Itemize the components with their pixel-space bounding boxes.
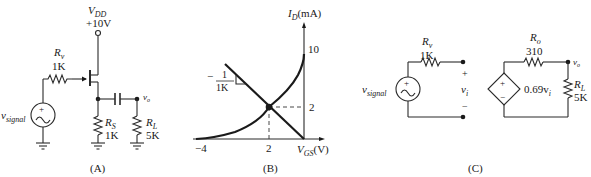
y-tick-10: 10 — [308, 43, 320, 55]
q-point — [266, 104, 273, 111]
ground-icon — [130, 143, 144, 149]
sine-icon — [401, 90, 415, 96]
rl-resistor — [133, 116, 141, 135]
sine-icon — [36, 117, 50, 123]
rs-resistor — [94, 116, 102, 135]
slope-sign: − — [207, 70, 213, 82]
transfer-curve — [196, 54, 304, 139]
slope-num: 1 — [222, 69, 227, 80]
rv-label: Rv — [53, 46, 65, 61]
gate-arrow-icon — [82, 77, 87, 82]
svg-text:−: − — [500, 92, 505, 102]
ground-icon — [91, 143, 105, 149]
rs-value: 1K — [105, 129, 119, 141]
panel-b: ID(mA) 10 2 −4 2 VGS(V) − 1 1K (B) — [193, 7, 329, 175]
vi-plus-terminal — [461, 60, 466, 65]
caption-b: (B) — [263, 162, 278, 175]
source-label: vsignal — [1, 109, 26, 124]
rl-value-c: 5K — [574, 91, 588, 103]
dep-source-gain: 0.69vi — [524, 83, 551, 98]
caption-c: (C) — [468, 162, 483, 175]
x-axis-label: VGS(V) — [297, 143, 329, 158]
panel-a: VDD +10V Rv 1K + vsignal — [1, 4, 160, 175]
slope-den: 1K — [216, 82, 229, 93]
vi-plus: + — [462, 68, 468, 79]
source-label-c: vsignal — [362, 83, 387, 98]
caption-a: (A) — [90, 162, 106, 175]
rv-resistor — [43, 75, 72, 83]
rl-resistor-c — [564, 79, 572, 98]
svg-text:+: + — [404, 78, 409, 88]
vi-label: vi — [461, 83, 468, 98]
y-axis-label: ID(mA) — [287, 7, 322, 22]
vi-minus-terminal — [461, 115, 466, 120]
load-line — [225, 64, 304, 139]
ro-resistor — [524, 58, 543, 66]
vdd-value: +10V — [86, 17, 111, 29]
rv-label-c: Rv — [421, 35, 433, 50]
vo-label-c: vo — [573, 57, 580, 68]
ro-label: Ro — [529, 31, 541, 46]
vi-minus: − — [462, 101, 468, 112]
ro-value: 310 — [526, 45, 543, 57]
rv-value: 1K — [52, 60, 66, 72]
x-tick-2: 2 — [266, 142, 272, 154]
vdd-terminal — [96, 31, 101, 36]
circuit-figure: VDD +10V Rv 1K + vsignal — [0, 0, 591, 177]
x-tick-neg4: −4 — [195, 142, 207, 154]
ground-icon — [36, 143, 50, 149]
vo-label: vo — [143, 92, 150, 103]
panel-c: Rv 1K + vsignal + vi − Ro 310 vo + − 0.6… — [362, 31, 588, 175]
y-tick-2: 2 — [309, 101, 315, 113]
rl-value: 5K — [146, 129, 160, 141]
svg-text:+: + — [39, 104, 44, 114]
svg-text:+: + — [500, 78, 505, 88]
